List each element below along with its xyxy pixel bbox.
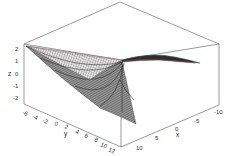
svg-text:2: 2 [15,46,19,52]
svg-text:6: 6 [84,132,90,139]
x-axis: 10 5 0 -5 -10 x [136,109,223,151]
svg-text:10: 10 [136,145,143,151]
svg-text:1: 1 [15,58,19,64]
svg-text:-4: -4 [32,113,40,121]
svg-text:8: 8 [94,136,100,143]
surface-tail [122,55,200,63]
svg-text:10: 10 [100,141,109,149]
svg-text:-1: -1 [13,83,19,89]
svg-text:5: 5 [155,135,159,141]
svg-text:12: 12 [108,146,117,154]
y-axis: -6 -4 -2 0 2 4 6 8 10 12 y [22,109,117,154]
z-axis-label: z [8,70,11,77]
svg-text:-2: -2 [42,117,50,125]
z-axis: 2 1 0 -1 -2 z [8,46,19,101]
svg-text:-5: -5 [194,118,200,124]
surface-plot-3d: 2 1 0 -1 -2 z -6 -4 -2 0 2 4 6 8 10 12 y… [0,0,233,156]
svg-text:-2: -2 [13,95,19,101]
x-axis-label: x [176,131,180,138]
svg-text:-6: -6 [22,109,30,117]
svg-text:4: 4 [75,128,81,135]
y-axis-label: y [64,130,68,138]
svg-text:0: 0 [54,120,60,127]
svg-text:0: 0 [15,71,19,77]
svg-text:-10: -10 [214,109,223,115]
